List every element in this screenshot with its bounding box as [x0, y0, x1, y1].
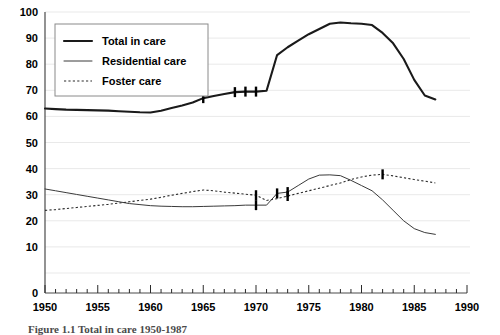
y-tick-label: 50: [26, 137, 38, 149]
y-tick-label: 90: [26, 32, 38, 44]
legend-label-total-in-care: Total in care: [102, 35, 166, 47]
y-tick-label: 70: [26, 84, 38, 96]
y-tick-label: 40: [26, 163, 38, 175]
x-tick-label: 1975: [297, 301, 321, 313]
y-tick-label: 60: [26, 110, 38, 122]
y-tick-label: 100: [20, 6, 38, 18]
legend-label-foster-care: Foster care: [102, 75, 161, 87]
y-tick-label: 10: [26, 241, 38, 253]
y-tick-label: 0: [32, 287, 38, 299]
y-tick-label: 30: [26, 189, 38, 201]
x-tick-label: 1955: [86, 301, 110, 313]
chart-legend: Total in care Residential care Foster ca…: [55, 24, 208, 96]
y-tick-label: 80: [26, 58, 38, 70]
figure-caption: Figure 1.1 Total in care 1950-1987: [28, 323, 188, 335]
x-tick-label: 1985: [402, 301, 426, 313]
legend-label-residential-care: Residential care: [102, 55, 186, 67]
x-tick-label: 1990: [455, 301, 479, 313]
x-tick-labels: 1950 1955 1960 1965 1970 1975 1980 1985 …: [33, 301, 479, 313]
chart-figure: 100 90 80 70 60 50 40 30 20 10 0 1950 19…: [0, 0, 500, 335]
y-tick-label: 20: [26, 215, 38, 227]
x-tick-label: 1965: [191, 301, 215, 313]
x-tick-label: 1970: [244, 301, 268, 313]
line-chart-svg: 100 90 80 70 60 50 40 30 20 10 0 1950 19…: [0, 0, 500, 335]
x-tick-label: 1980: [349, 301, 373, 313]
x-tick-label: 1950: [33, 301, 57, 313]
x-tick-label: 1960: [138, 301, 162, 313]
